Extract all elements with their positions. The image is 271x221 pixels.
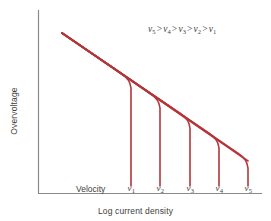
y-axis-title: Overvoltage	[9, 87, 19, 134]
velocity-order-annotation: v5>v4>v3>v2>v1	[148, 24, 216, 34]
curve-v4	[62, 33, 219, 186]
legend-v4: v4	[163, 24, 170, 34]
plot-canvas	[0, 0, 271, 221]
curve-v5	[62, 33, 248, 186]
legend-gt-4: >	[201, 24, 209, 34]
tafel-plot-figure: v5>v4>v3>v2>v1 Velocity v1 v2 v3 v4 v5 L…	[0, 0, 271, 221]
x-tick-label-v1: v1	[127, 183, 134, 193]
y-axis-title-wrapper: Overvoltage	[0, 0, 28, 221]
x-tick-label-v3: v3	[186, 183, 193, 193]
legend-v2: v2	[194, 24, 201, 34]
x-tick-label-v4: v4	[215, 183, 222, 193]
x-tick-label-v2: v2	[156, 183, 163, 193]
velocity-axis-note: Velocity	[76, 184, 105, 194]
x-axis-title: Log current density	[0, 206, 271, 216]
legend-gt-3: >	[186, 24, 194, 34]
legend-v3: v3	[178, 24, 185, 34]
x-tick-label-v5: v5	[244, 183, 251, 193]
curve-v3	[62, 33, 190, 186]
curve-v2	[62, 33, 160, 186]
legend-v1: v1	[209, 24, 216, 34]
